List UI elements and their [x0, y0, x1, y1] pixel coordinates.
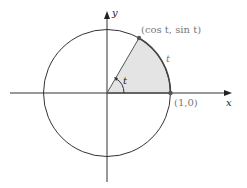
arc-label: t: [166, 54, 170, 64]
shaded-sector: [107, 38, 171, 93]
diagram-canvas: [0, 0, 247, 188]
y-axis-label: y: [112, 8, 118, 18]
y-axis-arrow-icon: [104, 11, 110, 19]
unit-circle-diagram: y x (cos t, sin t) t t (1,0): [0, 0, 247, 188]
point-cos-sin: [137, 36, 141, 40]
angle-label: t: [123, 76, 127, 86]
point-label-one-zero: (1,0): [174, 98, 198, 108]
x-axis-label: x: [226, 98, 232, 108]
x-axis-arrow-icon: [224, 90, 232, 96]
point-one-zero: [168, 91, 172, 95]
point-label-cos-sin: (cos t, sin t): [141, 25, 201, 35]
